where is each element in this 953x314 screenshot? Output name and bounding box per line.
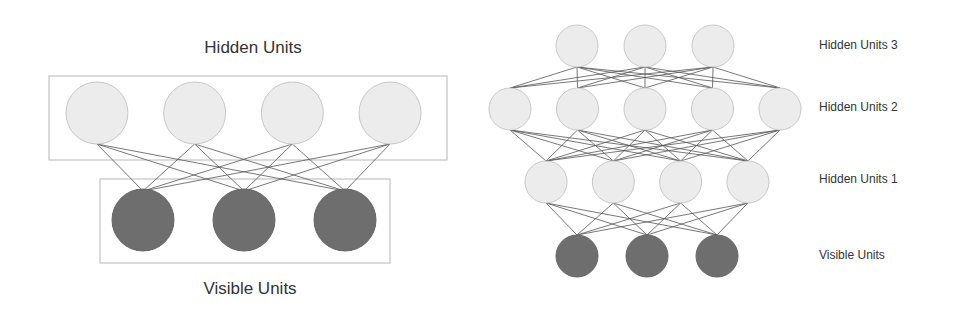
rbm-hidden-unit [66, 82, 128, 144]
connection-edge [681, 203, 717, 235]
rbm-hidden-title: Hidden Units [204, 38, 301, 57]
dbn-unit-layer-3 [556, 235, 598, 277]
dbn-diagram: Hidden Units 3 Hidden Units 2 Hidden Uni… [489, 25, 898, 277]
dbn-unit-layer-1 [759, 88, 801, 130]
connection-edge [577, 203, 613, 235]
diagram-canvas: Hidden Units Visible Units Hidden Units … [0, 0, 953, 314]
dbn-unit-layer-0 [556, 25, 598, 67]
connection-edge [546, 130, 780, 161]
dbn-unit-layer-2 [592, 161, 634, 203]
dbn-unit-layer-0 [692, 25, 734, 67]
connection-edge [713, 67, 714, 88]
dbn-unit-layer-1 [624, 88, 666, 130]
rbm-hidden-unit [261, 82, 323, 144]
connection-edge [143, 144, 195, 191]
rbm-hidden-unit [359, 82, 421, 144]
connection-edge [510, 67, 713, 88]
dbn-unit-layer-1 [489, 88, 531, 130]
dbn-unit-layer-1 [557, 88, 599, 130]
rbm-visible-title: Visible Units [203, 279, 296, 298]
rbm-diagram: Hidden Units Visible Units [49, 38, 447, 298]
rbm-edges [97, 144, 390, 191]
dbn-unit-layer-3 [626, 235, 668, 277]
dbn-unit-layer-1 [692, 88, 734, 130]
rbm-visible-unit [213, 189, 275, 251]
dbn-label-hidden-1: Hidden Units 1 [819, 172, 898, 186]
dbn-unit-layer-0 [624, 25, 666, 67]
rbm-visible-units [112, 189, 376, 251]
dbn-unit-layer-2 [727, 161, 769, 203]
dbn-unit-layer-2 [660, 161, 702, 203]
dbn-unit-layer-2 [525, 161, 567, 203]
dbn-label-hidden-2: Hidden Units 2 [819, 100, 898, 114]
connection-edge [195, 144, 244, 191]
dbn-label-hidden-3: Hidden Units 3 [819, 38, 898, 52]
rbm-hidden-unit [164, 82, 226, 144]
connection-edge [510, 130, 546, 161]
dbn-label-visible: Visible Units [819, 248, 885, 262]
dbn-unit-layer-3 [696, 235, 738, 277]
rbm-visible-unit [112, 189, 174, 251]
rbm-hidden-units [66, 82, 421, 144]
connection-edge [292, 144, 345, 191]
rbm-visible-unit [314, 189, 376, 251]
